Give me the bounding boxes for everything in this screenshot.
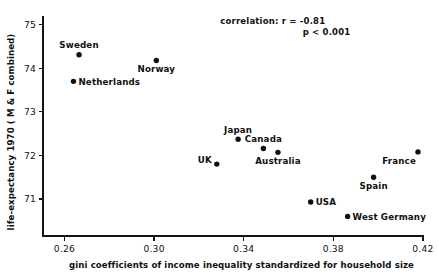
x-tick-label: 0.26	[54, 243, 75, 254]
y-tick-label: 71	[24, 193, 36, 204]
point-label-sweden: Sweden	[59, 40, 98, 50]
data-point	[154, 58, 159, 63]
x-tick-label: 0.30	[143, 243, 164, 254]
data-point	[371, 174, 376, 179]
data-point	[214, 161, 219, 166]
y-tick-label: 72	[24, 150, 36, 161]
data-point	[76, 52, 81, 57]
data-point	[275, 150, 280, 155]
data-point	[308, 199, 313, 204]
correlation-r: correlation: r = -0.81	[220, 16, 325, 26]
data-point	[235, 137, 240, 142]
point-label-netherlands: Netherlands	[78, 77, 140, 87]
point-label-canada: Canada	[245, 134, 282, 144]
p-value: p < 0.001	[303, 27, 351, 37]
point-label-usa: USA	[316, 197, 337, 207]
annotations-group: correlation: r = -0.81p < 0.001	[220, 16, 350, 37]
y-tick-label: 75	[24, 19, 36, 30]
axis-titles-group: gini coefficients of income inequality s…	[6, 34, 414, 270]
data-point	[71, 79, 76, 84]
point-labels-group: SwedenNorwayNetherlandsJapanCanadaAustra…	[59, 40, 426, 221]
point-label-west-germany: West Germany	[353, 212, 427, 222]
data-point	[415, 149, 420, 154]
y-tick-label: 74	[24, 63, 36, 74]
point-label-france: France	[382, 156, 416, 166]
x-axis-title: gini coefficients of income inequality s…	[69, 260, 414, 270]
x-tick-label: 0.34	[233, 243, 254, 254]
scatter-chart-figure: 71727374750.260.300.340.380.42 SwedenNor…	[0, 0, 439, 276]
plot-canvas: 71727374750.260.300.340.380.42 SwedenNor…	[0, 0, 439, 276]
point-label-australia: Australia	[255, 156, 301, 166]
point-label-uk: UK	[198, 155, 212, 165]
y-axis-title: life-expectancy 1970 ( M & F combined)	[6, 34, 16, 231]
x-tick-label: 0.42	[412, 243, 433, 254]
data-point	[345, 214, 350, 219]
point-label-spain: Spain	[359, 181, 387, 191]
point-label-norway: Norway	[137, 64, 175, 74]
y-tick-label: 73	[24, 106, 36, 117]
data-point	[261, 146, 266, 151]
x-tick-label: 0.38	[323, 243, 344, 254]
